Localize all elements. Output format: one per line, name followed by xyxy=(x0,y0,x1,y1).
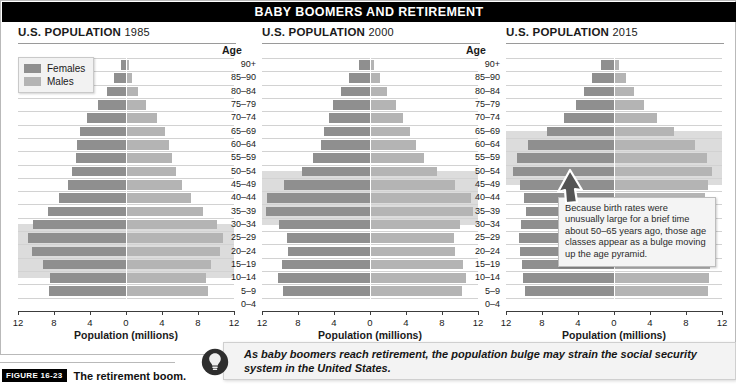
panel-title-rule xyxy=(18,43,236,44)
bar-females xyxy=(278,273,370,283)
panel-title-year: 2000 xyxy=(369,26,394,38)
age-label: 25–29 xyxy=(475,233,500,242)
callout-box: Because birth rates were unusually large… xyxy=(558,197,716,267)
bar-males xyxy=(614,100,644,110)
age-label: 45–49 xyxy=(231,180,256,189)
bar-males xyxy=(614,87,634,97)
x-axis-tick xyxy=(506,311,507,315)
legend-males-swatch xyxy=(24,77,41,86)
lightbulb-icon xyxy=(201,348,229,376)
bar-females xyxy=(287,233,370,243)
figure-number-badge: FIGURE 16-23 xyxy=(2,369,67,382)
x-axis-tick xyxy=(370,311,371,315)
bottom-note: As baby boomers reach retirement, the po… xyxy=(179,340,736,384)
bar-females xyxy=(267,193,370,203)
bar-males xyxy=(614,113,657,123)
age-label: 80–84 xyxy=(475,87,500,96)
bar-females xyxy=(333,100,370,110)
bar-females xyxy=(107,87,126,97)
plot-area-2015 xyxy=(506,58,722,311)
bar-males xyxy=(126,207,203,217)
age-label: 85–90 xyxy=(475,73,500,82)
center-axis-line xyxy=(370,58,371,311)
bar-males xyxy=(126,153,172,163)
age-label: 50–54 xyxy=(475,167,500,176)
bar-males xyxy=(126,193,191,203)
age-label: 50–54 xyxy=(231,167,256,176)
age-label: 85–90 xyxy=(231,73,256,82)
x-axis-tick-label: 0 xyxy=(611,317,616,328)
x-axis-tick-label: 8 xyxy=(195,317,200,328)
bar-females xyxy=(547,127,614,137)
age-label: 0–4 xyxy=(485,300,500,309)
bar-females xyxy=(87,113,126,123)
x-axis-tick xyxy=(614,311,615,315)
bar-females xyxy=(32,247,126,257)
panel-title-2015: U.S. POPULATION 2015 xyxy=(506,26,638,38)
bar-males xyxy=(370,273,466,283)
x-axis-tick xyxy=(18,311,19,315)
x-axis-tick-label: 4 xyxy=(403,317,408,328)
x-axis-tick xyxy=(234,311,235,315)
x-axis-tick-label: 12 xyxy=(473,317,484,328)
pyramid-panel-2000: U.S. POPULATION 2000Age90+85–9080–8475–7… xyxy=(250,26,490,326)
bar-males xyxy=(370,220,460,230)
age-axis-labels: 90+85–9080–8475–7970–7465–6960–6455–5950… xyxy=(216,58,256,311)
age-label: 70–74 xyxy=(231,113,256,122)
pyramid-panel-2015: U.S. POPULATION 2015Age90+85–9080–8475–7… xyxy=(494,26,734,326)
bar-females xyxy=(98,100,126,110)
bar-males xyxy=(126,273,206,283)
x-axis-tick xyxy=(162,311,163,315)
x-axis-tick xyxy=(126,311,127,315)
age-label: 30–34 xyxy=(231,220,256,229)
bar-females xyxy=(576,100,614,110)
plot-area-2000 xyxy=(262,58,478,311)
age-label: 0–4 xyxy=(241,300,256,309)
bar-males xyxy=(126,127,165,137)
age-label: 10–14 xyxy=(231,273,256,282)
x-axis-tick-label: 8 xyxy=(683,317,688,328)
legend-males: Males xyxy=(24,75,85,88)
x-axis-tick-label: 12 xyxy=(257,317,268,328)
x-axis-tick xyxy=(54,311,55,315)
bar-females xyxy=(77,140,127,150)
panel-title-rule xyxy=(506,43,724,44)
bar-males xyxy=(614,273,709,283)
bar-females xyxy=(33,220,126,230)
age-label: 30–34 xyxy=(475,220,500,229)
age-label: 80–84 xyxy=(231,87,256,96)
bar-males xyxy=(370,233,454,243)
plot-area-1985 xyxy=(18,58,234,311)
bar-females xyxy=(601,60,614,70)
bar-males xyxy=(370,207,473,217)
x-axis-tick xyxy=(542,311,543,315)
bar-males xyxy=(370,247,455,257)
age-label: 60–64 xyxy=(231,140,256,149)
bar-males xyxy=(370,100,396,110)
legend-males-label: Males xyxy=(47,76,74,87)
age-label: 35–39 xyxy=(231,207,256,216)
x-axis-tick-label: 12 xyxy=(229,317,240,328)
bar-females xyxy=(523,273,614,283)
x-axis-tick-label: 8 xyxy=(439,317,444,328)
x-axis-tick-label: 4 xyxy=(575,317,580,328)
bar-females xyxy=(80,127,126,137)
figure-caption-text: The retirement boom. xyxy=(74,370,186,382)
age-label: 5–9 xyxy=(485,287,500,296)
age-label: 65–69 xyxy=(231,127,256,136)
bar-males xyxy=(370,180,455,190)
panel-title-year: 2015 xyxy=(613,26,638,38)
bar-females xyxy=(313,153,370,163)
bar-females xyxy=(564,113,614,123)
panel-title-prefix: U.S. POPULATION xyxy=(262,26,365,38)
bar-males xyxy=(370,286,462,296)
x-axis-tick xyxy=(262,311,263,315)
bar-females xyxy=(302,167,370,177)
bar-females xyxy=(114,73,126,83)
age-label: 55–59 xyxy=(231,153,256,162)
age-label: 55–59 xyxy=(475,153,500,162)
bar-females xyxy=(592,73,615,83)
x-axis-tick-label: 8 xyxy=(295,317,300,328)
bar-females xyxy=(49,286,126,296)
bar-males xyxy=(614,153,707,163)
